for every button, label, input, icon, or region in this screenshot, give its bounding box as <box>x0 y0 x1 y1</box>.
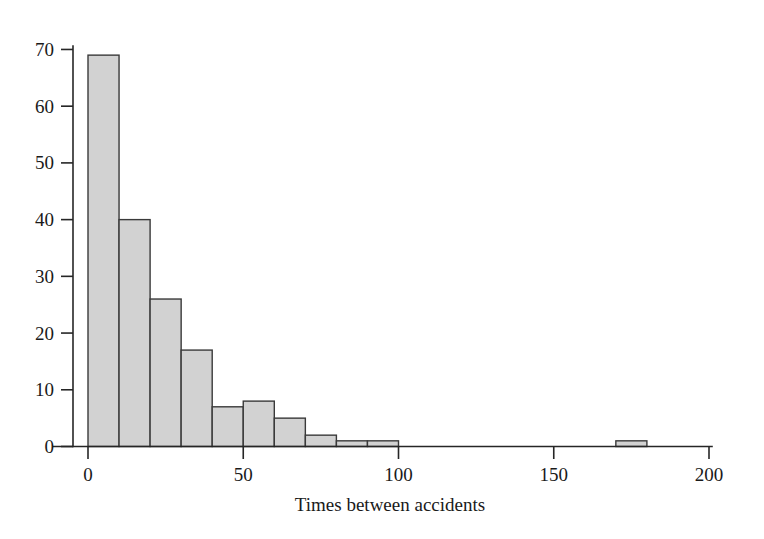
y-tick-label: 20 <box>35 323 54 344</box>
y-tick-label: 70 <box>35 39 54 60</box>
x-tick-label: 100 <box>384 464 413 485</box>
x-tick-label: 50 <box>234 464 253 485</box>
histogram-chart: 010203040506070 050100150200 Times betwe… <box>0 0 764 539</box>
x-tick-label: 200 <box>695 464 724 485</box>
y-tick-label: 50 <box>35 152 54 173</box>
histogram-bar <box>305 435 336 446</box>
histogram-bar <box>243 401 274 446</box>
y-tick-label: 40 <box>35 209 54 230</box>
histogram-bar <box>212 407 243 447</box>
x-tick-label: 0 <box>83 464 93 485</box>
x-axis-title: Times between accidents <box>295 494 485 515</box>
histogram-bar <box>367 441 398 447</box>
y-tick-label: 0 <box>45 436 55 457</box>
y-tick-label: 60 <box>35 96 54 117</box>
y-tick-label: 30 <box>35 266 54 287</box>
histogram-bar <box>150 299 181 446</box>
histogram-bar <box>119 220 150 447</box>
histogram-svg: 010203040506070 050100150200 Times betwe… <box>0 0 764 539</box>
histogram-bar <box>336 441 367 447</box>
histogram-bar <box>181 350 212 446</box>
x-tick-label: 150 <box>540 464 569 485</box>
histogram-bar <box>616 441 647 447</box>
y-tick-label: 10 <box>35 379 54 400</box>
histogram-bar <box>274 418 305 446</box>
histogram-bar <box>88 55 119 446</box>
